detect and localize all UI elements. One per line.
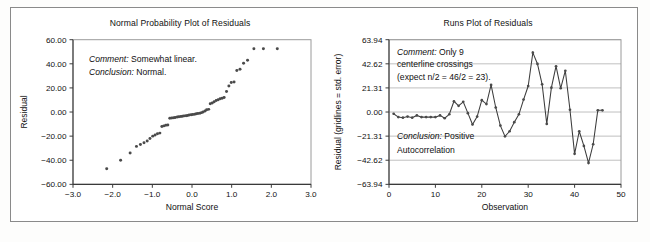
x-tick-label: 1.0 — [226, 190, 238, 199]
x-tick-label: −2.0 — [105, 190, 122, 199]
data-point — [158, 132, 161, 135]
data-point — [252, 47, 255, 50]
x-tick-label: 30 — [524, 190, 534, 199]
y-tick-label: −60.00 — [41, 180, 67, 189]
data-point — [499, 124, 502, 127]
annotation-body: Somewhat linear. — [129, 55, 197, 65]
annotation-text: Autocorrelation — [397, 145, 455, 155]
annotation-text: (expect n/2 = 46/2 = 23). — [397, 72, 491, 82]
normal-probability-plot-svg: −60.00−40.00−20.000.0020.0040.0060.00−3.… — [11, 8, 327, 221]
data-point — [242, 62, 245, 65]
data-point — [480, 99, 483, 102]
data-point — [601, 109, 604, 112]
y-tick-label: 21.31 — [362, 84, 383, 93]
runs-plot-panel: Runs Plot of Residuals −63.94−42.62−21.3… — [327, 8, 639, 221]
data-point — [146, 139, 149, 142]
data-point — [569, 108, 572, 111]
annotation-body: Positive — [442, 131, 475, 141]
y-tick-label: 0.00 — [51, 108, 67, 117]
data-point — [504, 135, 507, 138]
data-point — [439, 114, 442, 117]
data-point — [531, 51, 534, 54]
data-point — [411, 116, 414, 119]
x-axis-title: Normal Score — [166, 202, 219, 212]
data-point — [578, 130, 581, 133]
data-point — [262, 47, 265, 50]
x-tick-label: −3.0 — [65, 190, 82, 199]
y-tick-label: 63.94 — [362, 36, 383, 45]
annotation-label: Comment: — [397, 47, 437, 57]
data-point — [545, 123, 548, 126]
figure-frame: Normal Probability Plot of Residuals −60… — [10, 7, 638, 222]
data-point — [541, 83, 544, 86]
data-point — [490, 84, 493, 87]
y-tick-label: 0.00 — [367, 108, 383, 117]
annotation-body: Autocorrelation — [397, 145, 455, 155]
data-point — [596, 109, 599, 112]
data-point — [508, 130, 511, 133]
data-point — [434, 116, 437, 119]
data-point — [392, 112, 395, 115]
data-point — [223, 96, 226, 99]
data-point — [166, 124, 169, 127]
y-tick-label: −63.94 — [357, 180, 383, 189]
data-point — [135, 145, 138, 148]
data-point — [119, 159, 122, 162]
data-point — [238, 68, 241, 71]
data-point — [415, 114, 418, 117]
data-point — [230, 81, 233, 84]
data-point — [129, 152, 132, 155]
data-point — [467, 112, 470, 115]
data-point — [550, 86, 553, 89]
y-tick-label: −42.62 — [357, 156, 383, 165]
data-point — [573, 153, 576, 156]
data-point — [462, 101, 465, 104]
annotation-text: Conclusion: Positive — [397, 131, 475, 141]
data-point — [448, 113, 451, 116]
annotation-body: Normal. — [134, 67, 166, 77]
data-point — [583, 145, 586, 148]
data-point — [227, 85, 230, 88]
y-tick-label: −40.00 — [41, 156, 67, 165]
annotation-label: Comment: — [89, 55, 129, 65]
data-point — [513, 121, 516, 124]
data-point — [429, 116, 432, 119]
data-point — [207, 108, 210, 111]
x-tick-label: 50 — [616, 190, 626, 199]
data-point — [233, 80, 236, 83]
x-tick-label: 10 — [431, 190, 441, 199]
annotation-body: (expect n/2 = 46/2 = 23). — [397, 72, 491, 82]
data-point — [522, 98, 525, 101]
data-point — [139, 143, 142, 146]
x-tick-label: 3.0 — [305, 190, 317, 199]
data-point — [592, 143, 595, 146]
data-point — [494, 106, 497, 109]
annotation-text: Conclusion: Normal. — [89, 67, 166, 77]
annotation-text: centerline crossings — [397, 59, 473, 69]
data-point — [471, 123, 474, 126]
data-point — [476, 115, 479, 118]
y-tick-label: −21.31 — [357, 132, 383, 141]
data-point — [518, 113, 521, 116]
data-point — [559, 87, 562, 90]
data-point — [402, 116, 405, 119]
data-point — [397, 116, 400, 119]
y-axis-title: Residual (gridlines = std. error) — [333, 54, 343, 171]
x-tick-label: 0.0 — [186, 190, 198, 199]
y-tick-label: 60.00 — [46, 36, 67, 45]
annotation-label: Conclusion: — [397, 131, 442, 141]
data-point — [527, 85, 530, 88]
x-tick-label: −1.0 — [144, 190, 161, 199]
x-tick-label: 0 — [387, 190, 392, 199]
data-point — [587, 162, 590, 165]
runs-plot-svg: −63.94−42.62−21.310.0021.3142.6263.94010… — [327, 8, 639, 221]
x-axis-title: Observation — [482, 202, 529, 212]
x-tick-label: 2.0 — [266, 190, 278, 199]
annotation-text: Comment: Somewhat linear. — [89, 55, 197, 65]
annotation-text: Comment: Only 9 — [397, 47, 464, 57]
annotation-body: centerline crossings — [397, 59, 473, 69]
y-tick-label: 42.62 — [362, 60, 383, 69]
data-point — [276, 47, 279, 50]
data-point — [457, 104, 460, 107]
y-tick-label: 20.00 — [46, 84, 67, 93]
